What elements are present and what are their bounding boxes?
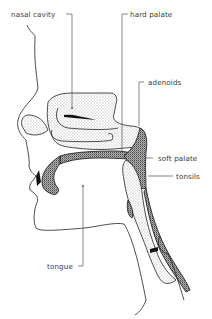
label-soft-palate: soft palate [158, 154, 198, 163]
tongue-marker [82, 185, 84, 187]
upper-jaw [42, 156, 60, 195]
label-adenoids: adenoids [148, 78, 182, 87]
anatomy-diagram: nasal cavity hard palate adenoids soft p… [0, 0, 212, 319]
nose-tip [21, 115, 48, 135]
leader-tongue [78, 186, 83, 266]
leader-adenoids [139, 82, 144, 126]
front-teeth [36, 170, 41, 186]
label-tongue: tongue [47, 262, 73, 271]
nasal-cavity-marker [71, 107, 73, 109]
label-nasal-cavity: nasal cavity [11, 10, 56, 19]
label-hard-palate: hard palate [130, 10, 173, 19]
label-tonsils: tonsils [176, 172, 200, 181]
